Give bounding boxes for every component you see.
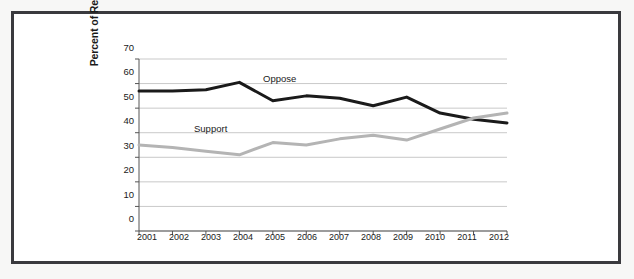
series-annotation-support: Support — [194, 124, 227, 134]
y-tick-label-20: 20 — [108, 165, 134, 175]
plot-area — [14, 14, 618, 261]
y-tick-label-10: 10 — [108, 190, 134, 200]
series-line-oppose — [139, 82, 507, 123]
series-annotation-oppose: Oppose — [263, 74, 296, 84]
x-tick-label-2012: 2012 — [479, 233, 519, 242]
y-tick-label-60: 60 — [108, 67, 134, 77]
series-lines — [139, 82, 507, 154]
y-tick-label-40: 40 — [108, 116, 134, 126]
y-axis-title: Percent of Respondents — [88, 0, 102, 72]
y-gridlines — [139, 59, 507, 231]
y-tick-label-50: 50 — [108, 92, 134, 102]
figure-page: Percent of Respondents 70 60 50 40 30 20… — [0, 0, 634, 279]
y-tick-label-0: 0 — [108, 214, 134, 224]
figure-frame: Percent of Respondents 70 60 50 40 30 20… — [11, 11, 621, 264]
y-tick-label-30: 30 — [108, 141, 134, 151]
y-tick-label-70: 70 — [108, 43, 134, 53]
axis-ticks — [135, 59, 507, 235]
line-chart: Percent of Respondents 70 60 50 40 30 20… — [14, 14, 618, 261]
